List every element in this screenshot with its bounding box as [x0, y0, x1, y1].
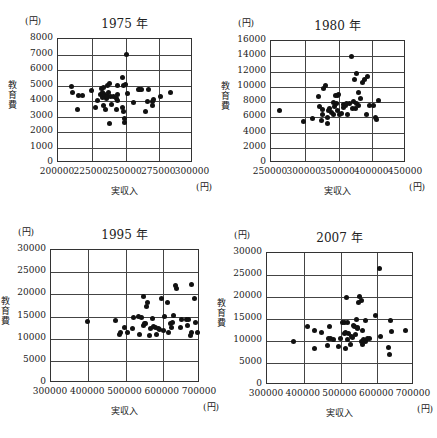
x-tick-label: 700000	[174, 386, 224, 396]
gridline-horizontal	[271, 148, 404, 149]
data-point	[158, 94, 163, 99]
data-point	[343, 346, 348, 351]
gridline-horizontal	[271, 133, 404, 134]
data-point	[80, 93, 85, 98]
y-tick-label: 0	[13, 156, 53, 166]
data-point	[316, 94, 321, 99]
y-tick-label: 5000	[13, 79, 53, 89]
data-point	[141, 294, 146, 299]
data-point	[143, 109, 148, 114]
x-unit-label: (円)	[409, 180, 425, 193]
gridline-horizontal	[58, 101, 191, 102]
gridline-horizontal	[267, 363, 412, 364]
gridline-horizontal	[267, 297, 412, 298]
data-point	[130, 326, 135, 331]
plot-area	[266, 252, 413, 384]
data-point	[69, 84, 74, 89]
data-point	[345, 320, 350, 325]
data-point	[360, 328, 365, 333]
data-point	[352, 77, 357, 82]
gridline-vertical	[92, 39, 93, 161]
data-point	[363, 318, 368, 323]
data-point	[353, 332, 358, 337]
data-point	[403, 328, 408, 333]
data-point	[371, 103, 376, 108]
data-point	[146, 87, 151, 92]
gridline-horizontal	[58, 148, 191, 149]
data-point	[319, 118, 324, 123]
data-point	[186, 317, 191, 322]
data-point	[154, 332, 159, 337]
data-point	[189, 330, 194, 335]
y-tick-label: 5000	[6, 354, 46, 364]
data-point	[75, 107, 80, 112]
data-point	[137, 332, 142, 337]
data-point	[291, 339, 296, 344]
y-tick-label: 2000	[226, 141, 266, 151]
y-tick-label: 4000	[13, 94, 53, 104]
data-point	[388, 318, 393, 323]
data-point	[109, 102, 114, 107]
y-tick-label: 0	[6, 376, 46, 386]
y-tick-label: 3000	[13, 110, 53, 120]
data-point	[319, 330, 324, 335]
gridline-horizontal	[267, 275, 412, 276]
y-tick-label: 12000	[226, 65, 266, 75]
data-point	[387, 352, 392, 357]
x-axis-label: 実収入	[111, 404, 138, 417]
x-unit-label: (円)	[196, 180, 212, 193]
data-point	[378, 334, 383, 339]
data-point	[139, 87, 144, 92]
data-point	[374, 117, 379, 122]
data-point	[150, 103, 155, 108]
data-point	[325, 343, 330, 348]
data-point	[150, 316, 155, 321]
x-tick-label: 300000	[167, 166, 217, 176]
gridline-vertical	[305, 41, 306, 161]
data-point	[115, 83, 120, 88]
data-point	[131, 100, 136, 105]
y-tick-label: 2000	[13, 125, 53, 135]
y-tick-label: 15000	[6, 310, 46, 320]
data-point	[151, 97, 156, 102]
y-unit-label: (円)	[25, 14, 41, 27]
chart-title: 1995 年	[75, 225, 175, 242]
x-unit-label: (円)	[203, 400, 219, 413]
data-point	[338, 336, 343, 341]
data-point	[178, 325, 183, 330]
plot-area	[50, 249, 199, 382]
gridline-vertical	[304, 253, 305, 383]
data-point	[161, 328, 166, 333]
y-tick-label: 25000	[222, 268, 262, 278]
data-point	[123, 82, 128, 87]
gridline-vertical	[377, 253, 378, 383]
gridline-horizontal	[271, 72, 404, 73]
x-tick-label: 700000	[388, 388, 437, 398]
chart-title: 1980 年	[288, 16, 388, 33]
data-point	[344, 295, 349, 300]
y-tick-label: 30000	[6, 243, 46, 253]
data-point	[185, 323, 190, 328]
data-point	[334, 101, 339, 106]
gridline-horizontal	[58, 132, 191, 133]
data-point	[305, 324, 310, 329]
y-tick-label: 16000	[226, 34, 266, 44]
data-point	[125, 330, 130, 335]
y-tick-label: 25000	[6, 265, 46, 275]
y-unit-label: (円)	[18, 225, 34, 238]
data-point	[339, 111, 344, 116]
data-point	[367, 336, 372, 341]
data-point	[70, 90, 75, 95]
data-point	[389, 329, 394, 334]
data-point	[365, 74, 370, 79]
gridline-horizontal	[51, 317, 198, 318]
data-point	[325, 121, 330, 126]
y-tick-label: 15000	[222, 312, 262, 322]
y-tick-label: 10000	[226, 80, 266, 90]
y-tick-label: 20000	[6, 287, 46, 297]
data-point	[113, 318, 118, 323]
data-point	[312, 328, 317, 333]
data-point	[336, 344, 341, 349]
data-point	[166, 330, 171, 335]
data-point	[103, 107, 108, 112]
